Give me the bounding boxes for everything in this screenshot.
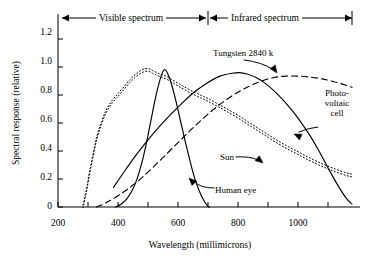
visible-band-arrow-right: [199, 15, 206, 22]
spectral-response-chart: Visible spectrum Infrared spectrum 1.2 1…: [0, 0, 367, 259]
photovoltaic-annotation-label: Photo- voltaic cell: [315, 88, 359, 118]
photovoltaic-annotation-leader: [299, 127, 318, 132]
y-tick-label-0-6: 0.6: [26, 114, 52, 124]
x-tick-label-600: 600: [158, 218, 198, 228]
y-tick-label-0-2: 0.2: [26, 172, 52, 182]
band-label-visible: Visible spectrum: [96, 13, 166, 23]
infrared-band-arrow-left: [210, 15, 217, 22]
tungsten-annotation-arrowhead: [270, 65, 277, 73]
y-tick-label-0: 0: [26, 201, 52, 211]
y-tick-label-0-4: 0.4: [26, 143, 52, 153]
x-tick-label-200: 200: [38, 218, 78, 228]
y-tick-label-1-2: 1.2: [26, 27, 52, 37]
sun-annotation-label: Sun: [220, 152, 234, 162]
sun-annotation-leader: [236, 157, 258, 160]
y-axis-title: Spectral response (relative): [11, 53, 21, 173]
y-tick-label-0-8: 0.8: [26, 85, 52, 95]
y-tick-label-1-0: 1.0: [26, 56, 52, 66]
x-tick-label-800: 800: [218, 218, 258, 228]
tungsten-annotation-leader: [244, 60, 274, 70]
x-tick-label-400: 400: [98, 218, 138, 228]
visible-band-arrow-left: [62, 15, 69, 22]
tungsten-annotation-label: Tungsten 2840 k: [213, 48, 273, 58]
photovoltaic-annotation-arrowhead: [294, 134, 302, 140]
band-label-infrared: Infrared spectrum: [228, 13, 302, 23]
human-eye-annotation-label: Human eye: [215, 185, 256, 195]
photovoltaic-label-line-2: voltaic: [325, 98, 350, 108]
photovoltaic-label-line-1: Photo-: [325, 88, 349, 98]
sun-annotation-arrowhead: [255, 156, 263, 163]
x-tick-label-1000: 1000: [278, 218, 318, 228]
curve-human-eye: [116, 70, 210, 208]
photovoltaic-label-line-3: cell: [331, 108, 344, 118]
infrared-band-arrow-right: [345, 15, 352, 22]
x-axis-title: Wavelength (millimicrons): [70, 240, 330, 250]
